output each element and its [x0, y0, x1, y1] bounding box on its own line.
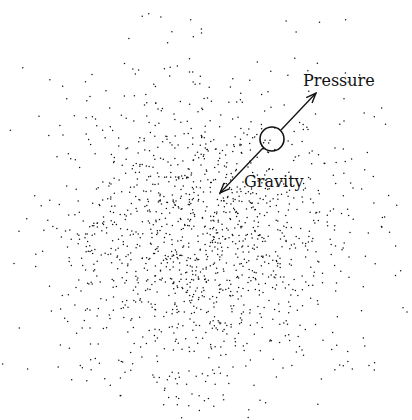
pressure-label: Pressure: [303, 71, 375, 90]
pressure-arrow-icon: [281, 93, 316, 130]
diagram-canvas: Pressure Gravity: [0, 0, 412, 420]
gas-cloud-diagram: Pressure Gravity: [0, 0, 412, 420]
gas-parcel-circle: [260, 127, 284, 151]
gravity-label: Gravity: [244, 172, 304, 191]
